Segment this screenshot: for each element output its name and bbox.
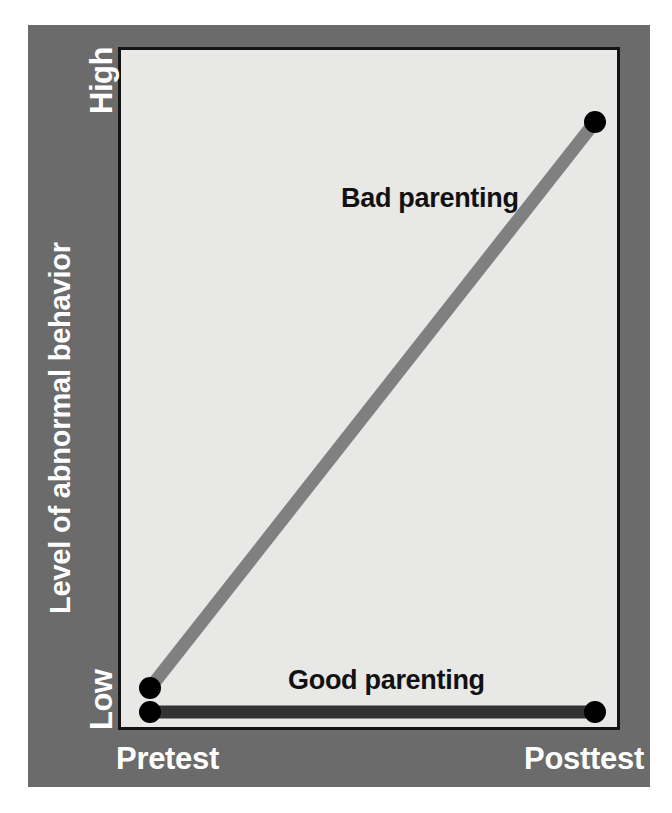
chart-figure: High Low Level of abnormal behavior Pret… xyxy=(0,0,672,813)
plot-area xyxy=(118,47,620,730)
y-axis-tick-high: High xyxy=(84,47,120,114)
x-axis-tick-posttest: Posttest xyxy=(524,741,644,777)
y-axis-title: Level of abnormal behavior xyxy=(44,242,77,614)
series-label-good-parenting: Good parenting xyxy=(288,665,485,696)
series-label-bad-parenting: Bad parenting xyxy=(341,183,519,214)
y-axis-tick-low: Low xyxy=(84,670,120,731)
x-axis-tick-pretest: Pretest xyxy=(116,741,219,777)
